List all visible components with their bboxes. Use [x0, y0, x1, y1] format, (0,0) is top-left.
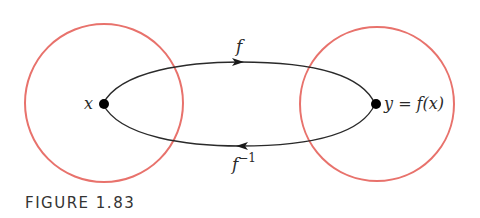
point-y [371, 99, 381, 109]
inverse-function-diagram: x y = f(x) f f−1 [0, 0, 480, 218]
forward-map-curve [103, 62, 375, 104]
label-y-equals-fx: y = f(x) [383, 94, 444, 113]
point-x [99, 99, 109, 109]
label-x: x [84, 94, 93, 113]
label-forward-map: f [234, 36, 245, 56]
label-inverse-map: f−1 [230, 151, 256, 174]
label-inverse-superscript: −1 [238, 151, 256, 165]
inverse-map-curve [103, 104, 375, 146]
figure-caption: FIGURE 1.83 [25, 194, 135, 212]
